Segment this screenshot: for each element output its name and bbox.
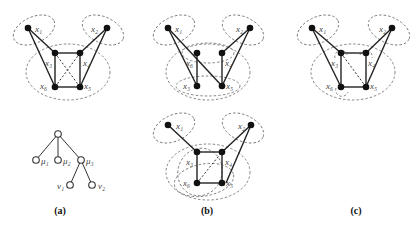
hyperedge-x1: [9, 9, 60, 51]
node-x2: [104, 25, 111, 32]
label-x6: x₆: [325, 81, 333, 91]
label-x5: x₅: [225, 178, 233, 188]
node-x1: [25, 25, 32, 32]
caption-c: (c): [350, 205, 361, 217]
label-x5: x₅: [369, 81, 377, 91]
node-x3: [52, 50, 59, 57]
label-mu2: μ₂: [62, 156, 71, 166]
label-v2: ν₂: [98, 181, 105, 191]
label-mu1: μ₁: [40, 156, 49, 166]
label-x6: x₆: [185, 58, 193, 68]
label-x6: x₆: [39, 81, 47, 91]
label-x4: x₄: [367, 58, 375, 68]
label-x4: x₄: [82, 58, 90, 68]
label-x6: x₆: [182, 178, 190, 188]
tree-node-mu2: [55, 157, 62, 164]
panel-a-tree: μ₁ μ₂ μ₃ ν₁ ν₂ (a): [33, 131, 105, 217]
tree-node-v1: [67, 182, 74, 189]
label-x2: x₂: [378, 24, 386, 34]
tree-root: [55, 131, 62, 138]
tree-node-v2: [89, 182, 96, 189]
node-x6: [52, 84, 59, 91]
label-x5: x₅: [225, 81, 233, 91]
label-x1: x₁: [318, 24, 326, 34]
label-x4: x₄: [224, 58, 232, 68]
label-x1: x₁: [175, 121, 183, 131]
hyperedge-x2: [78, 9, 129, 51]
panel-b-bottom-graph: x₁ x₂ x₃ x₄ x₆ x₅ (b): [149, 107, 269, 217]
figure-canvas: x₁ x₂ x₃ x₄ x₆ x₅ μ₁ μ₂ μ₃ ν₁ ν₂ (a): [0, 0, 420, 233]
label-x4: x₄: [224, 157, 232, 167]
panel-c-graph: x₁ x₂ x₃ x₄ x₆ x₅ (c): [293, 9, 415, 217]
label-x1: x₁: [174, 24, 182, 34]
label-x5: x₅: [83, 81, 91, 91]
label-x3: x₃: [330, 58, 338, 68]
label-x3: x₃: [182, 81, 190, 91]
tree-node-mu3: [78, 157, 85, 164]
panel-b-top-graph: x₁ x₂ x₆ x₄ x₃ x₅: [149, 9, 269, 100]
panel-a-graph: x₁ x₂ x₃ x₄ x₆ x₅: [9, 9, 129, 100]
label-mu3: μ₃: [85, 156, 94, 166]
caption-a: (a): [54, 205, 66, 217]
node-x5: [77, 84, 84, 91]
label-x3: x₃: [44, 58, 52, 68]
label-x2: x₂: [90, 24, 98, 34]
diag-dashed-2: [55, 53, 80, 87]
label-x2: x₂: [237, 121, 245, 131]
node-x4: [77, 50, 84, 57]
label-x1: x₁: [34, 24, 42, 34]
label-x3: x₃: [185, 157, 193, 167]
tree-node-mu1: [33, 157, 40, 164]
label-v1: ν₁: [57, 181, 64, 191]
caption-b: (b): [201, 205, 213, 217]
label-x2: x₂: [235, 24, 243, 34]
